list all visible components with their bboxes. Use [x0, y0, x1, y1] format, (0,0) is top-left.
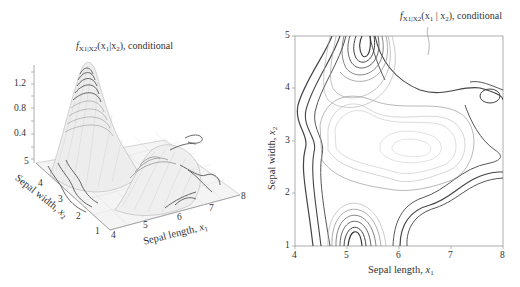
y-tick: 1: [285, 240, 290, 250]
xlabel-sub: 1: [430, 269, 434, 277]
contour-graphic: [0, 0, 520, 287]
title-sub: X1|X2: [403, 15, 422, 23]
contour-xlabel: Sepal length, x1: [368, 264, 434, 277]
y-tick: 3: [285, 135, 290, 145]
ylabel-sub: 2: [271, 127, 279, 131]
title-open: (x: [421, 10, 429, 21]
x-tick: 8: [500, 250, 505, 260]
xlabel-text: Sepal length,: [368, 264, 425, 275]
contour-title: fX1|X2(x1 | x2), conditional: [400, 10, 502, 23]
x-tick: 5: [344, 250, 349, 260]
contour-ylabel: Sepal width, x2: [266, 127, 279, 190]
y-tick: 4: [285, 82, 290, 92]
x-tick: 7: [448, 250, 453, 260]
y-tick: 2: [285, 187, 290, 197]
title-bar: | x: [433, 10, 445, 21]
y-tick: 5: [285, 30, 290, 40]
x-tick: 6: [396, 250, 401, 260]
ylabel-var: x: [266, 130, 277, 135]
title-close: ), conditional: [449, 10, 502, 21]
ylabel-text: Sepal width,: [266, 135, 277, 190]
x-tick: 4: [292, 250, 297, 260]
